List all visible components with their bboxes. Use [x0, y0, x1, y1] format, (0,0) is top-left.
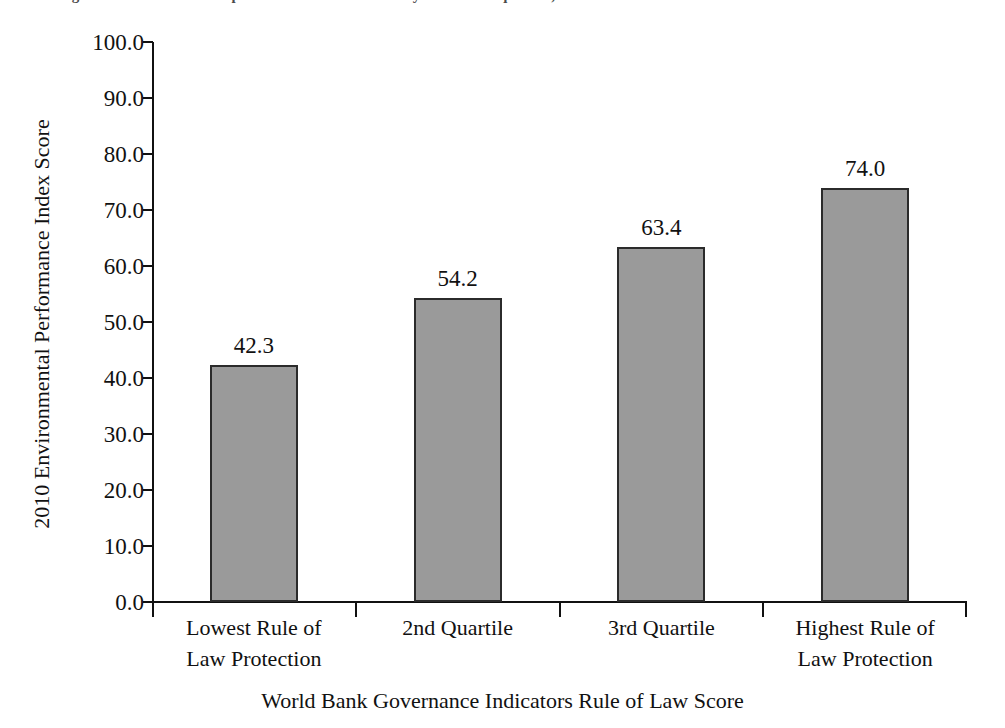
- y-axis-tick-labels: 100.090.080.070.060.050.040.030.020.010.…: [48, 42, 144, 602]
- x-axis-category-label-line1: Lowest Rule of: [186, 615, 322, 640]
- y-axis-tick-label: 10.0: [48, 535, 144, 558]
- y-axis-tick-mark: [143, 209, 153, 211]
- x-axis-title: World Bank Governance Indicators Rule of…: [0, 688, 1005, 714]
- x-axis-category-label-line1: 3rd Quartile: [608, 615, 715, 640]
- y-axis-tick-label: 50.0: [48, 311, 144, 334]
- y-axis-tick-mark: [143, 265, 153, 267]
- bar[interactable]: [617, 247, 705, 602]
- x-axis-category-label: Lowest Rule ofLaw Protection: [152, 612, 356, 674]
- y-axis-tick-mark: [143, 377, 153, 379]
- y-axis-tick-mark: [143, 41, 153, 43]
- x-axis-category-label: Highest Rule ofLaw Protection: [763, 612, 967, 674]
- x-axis-category-label-line1: 2nd Quartile: [402, 615, 513, 640]
- y-axis-tick-mark: [143, 545, 153, 547]
- bar[interactable]: [210, 365, 298, 602]
- x-axis-category-label: 2nd Quartile: [356, 612, 560, 643]
- y-axis-tick-label: 30.0: [48, 423, 144, 446]
- bar-chart-figure: 2010 Environmental Performance Index Sco…: [0, 0, 1005, 728]
- bar[interactable]: [414, 298, 502, 602]
- y-axis-tick-mark: [143, 97, 153, 99]
- y-axis-tick-mark: [143, 489, 153, 491]
- bar-value-label: 54.2: [398, 267, 518, 290]
- y-axis-tick-label: 40.0: [48, 367, 144, 390]
- plot-area: 42.354.263.474.0: [152, 42, 967, 602]
- x-axis-category-label-line2: Law Protection: [152, 643, 356, 674]
- x-axis-category-label: 3rd Quartile: [560, 612, 764, 643]
- bar[interactable]: [821, 188, 909, 602]
- y-axis-tick-label: 100.0: [48, 31, 144, 54]
- x-axis-category-label-line1: Highest Rule of: [795, 615, 934, 640]
- y-axis-tick-mark: [143, 321, 153, 323]
- x-axis-category-labels: Lowest Rule ofLaw Protection2nd Quartile…: [152, 612, 967, 680]
- y-axis-tick-label: 70.0: [48, 199, 144, 222]
- bar-value-label: 42.3: [194, 334, 314, 357]
- y-axis-tick-mark: [143, 153, 153, 155]
- y-axis-tick-mark: [143, 433, 153, 435]
- bar-value-label: 63.4: [601, 216, 721, 239]
- bar-value-label: 74.0: [805, 157, 925, 180]
- y-axis-tick-label: 0.0: [48, 591, 144, 614]
- y-axis-tick-label: 90.0: [48, 87, 144, 110]
- y-axis-tick-label: 20.0: [48, 479, 144, 502]
- y-axis-tick-label: 80.0: [48, 143, 144, 166]
- y-axis-tick-label: 60.0: [48, 255, 144, 278]
- x-axis-category-label-line2: Law Protection: [763, 643, 967, 674]
